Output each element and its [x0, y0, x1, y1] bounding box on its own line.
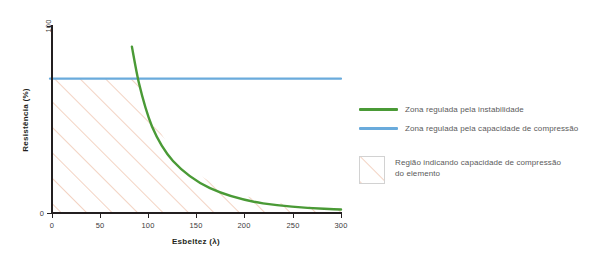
- x-tick-300: [341, 214, 342, 218]
- legend-item-regiao[interactable]: Região indicando capacidade de compressã…: [359, 156, 570, 184]
- y-axis-title: Resistência (%): [21, 88, 30, 152]
- chart-figure: 0 50 100 150 200 250 300 0 100 Esbeltez …: [0, 0, 608, 259]
- legend-item-compressao[interactable]: Zona regulada pela capacidade de compres…: [359, 123, 578, 134]
- legend-label-instabilidade: Zona regulada pela instabilidade: [405, 104, 524, 115]
- x-tick-label-50: 50: [96, 221, 105, 230]
- y-axis-line: [51, 25, 53, 214]
- x-tick-label-100: 100: [141, 221, 154, 230]
- y-tick-label-0: 0: [40, 209, 44, 218]
- x-tick-50: [100, 214, 101, 218]
- x-tick-label-250: 250: [286, 221, 299, 230]
- legend-item-instabilidade[interactable]: Zona regulada pela instabilidade: [359, 104, 524, 115]
- plot-svg: [52, 26, 341, 213]
- y-tick-label-100: 100: [44, 19, 53, 32]
- legend-line-swatch-blue-icon: [359, 127, 398, 130]
- x-tick-250: [293, 214, 294, 218]
- x-tick-label-0: 0: [50, 221, 54, 230]
- x-tick-label-150: 150: [189, 221, 202, 230]
- shaded-compression-region: [52, 79, 341, 213]
- x-tick-200: [244, 214, 245, 218]
- legend-label-compressao: Zona regulada pela capacidade de compres…: [405, 123, 578, 134]
- plot-area: [52, 26, 341, 213]
- x-tick-150: [196, 214, 197, 218]
- legend-line-swatch-green-icon: [359, 108, 398, 111]
- legend-hatch-box-icon: [359, 156, 385, 184]
- x-tick-label-300: 300: [334, 221, 347, 230]
- x-axis-title: Esbeltez (λ): [172, 237, 220, 246]
- x-tick-0: [52, 214, 53, 218]
- x-tick-100: [148, 214, 149, 218]
- y-tick-0: [47, 213, 51, 214]
- x-tick-label-200: 200: [237, 221, 250, 230]
- legend-label-regiao: Região indicando capacidade de compressã…: [395, 157, 570, 179]
- legend-hatch-svg: [360, 157, 384, 183]
